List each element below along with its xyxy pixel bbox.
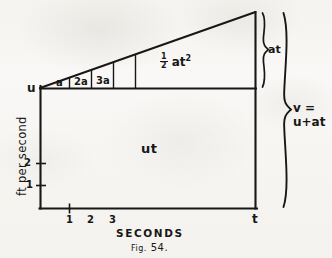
x-axis-title: SECONDS xyxy=(116,228,184,239)
figure-caption: Fig. 54. xyxy=(131,243,168,253)
velocity-slope-line xyxy=(40,12,256,88)
x-axis-end-label-t: t xyxy=(252,213,258,225)
x-tick-label-2: 2 xyxy=(87,215,94,225)
triangle-area-label: 1 2 at2 xyxy=(160,54,191,70)
brace-v-line1: v = xyxy=(293,101,325,115)
triangle-area-body: at xyxy=(172,55,186,69)
initial-velocity-label-u: u xyxy=(27,82,36,94)
brace-v-line2: u+at xyxy=(293,115,325,129)
strip-label-3a: 3a xyxy=(96,76,110,86)
figure-caption-prefix: Fig. xyxy=(131,244,147,253)
strip-label-a: a xyxy=(56,78,63,88)
brace-v-shape xyxy=(284,13,292,207)
figure-caption-number: 54. xyxy=(151,242,169,253)
y-tick-label-1: 1 xyxy=(26,180,33,190)
x-tick-label-1: 1 xyxy=(66,215,73,225)
velocity-time-graph-figure xyxy=(0,0,332,258)
brace-v-label: v = u+at xyxy=(293,101,325,129)
fraction-denominator: 2 xyxy=(160,62,168,70)
x-tick-label-3: 3 xyxy=(109,215,116,225)
y-tick-label-2: 2 xyxy=(24,158,31,168)
triangle-area-exponent: 2 xyxy=(186,54,192,63)
brace-at-label: at xyxy=(268,44,281,55)
one-half-fraction: 1 2 xyxy=(160,53,168,69)
strip-label-2a: 2a xyxy=(74,77,88,87)
rectangle-area-label: ut xyxy=(141,142,157,155)
